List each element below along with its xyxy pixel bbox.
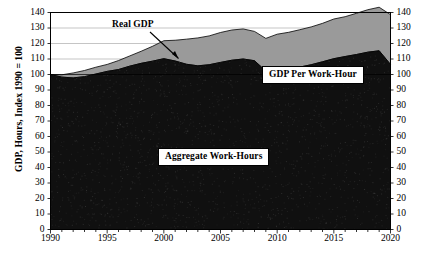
texture-dot	[308, 148, 309, 149]
texture-dot	[377, 141, 378, 142]
texture-dot	[283, 222, 284, 223]
texture-dot	[238, 218, 239, 219]
texture-dot	[360, 117, 361, 118]
texture-dot	[318, 160, 319, 161]
texture-dot	[235, 82, 236, 83]
texture-dot	[238, 190, 239, 191]
texture-dot	[284, 24, 285, 25]
texture-dot	[71, 154, 72, 155]
texture-dot	[371, 128, 372, 129]
texture-dot	[95, 29, 96, 30]
texture-dot	[197, 84, 198, 85]
texture-dot	[367, 116, 368, 117]
texture-dot	[165, 131, 166, 132]
texture-dot	[240, 222, 241, 223]
texture-dot	[180, 202, 181, 203]
texture-dot	[365, 77, 366, 78]
texture-dot	[149, 130, 150, 131]
texture-dot	[265, 118, 266, 119]
texture-dot	[355, 173, 356, 174]
texture-dot	[124, 169, 125, 170]
texture-dot	[240, 128, 241, 129]
texture-dot	[368, 90, 369, 91]
texture-dot	[142, 224, 143, 225]
texture-dot	[255, 191, 256, 192]
texture-dot	[346, 210, 347, 211]
texture-dot	[120, 170, 121, 171]
texture-dot	[63, 174, 64, 175]
texture-dot	[173, 220, 174, 221]
texture-dot	[219, 186, 220, 187]
texture-dot	[239, 178, 240, 179]
texture-dot	[334, 122, 335, 123]
texture-dot	[82, 117, 83, 118]
texture-dot	[141, 99, 142, 100]
texture-dot	[363, 155, 364, 156]
texture-dot	[288, 223, 289, 224]
texture-dot	[212, 96, 213, 97]
texture-dot	[376, 223, 377, 224]
texture-dot	[144, 160, 145, 161]
texture-dot	[60, 118, 61, 119]
texture-dot	[205, 140, 206, 141]
texture-dot	[320, 125, 321, 126]
texture-dot	[204, 97, 205, 98]
texture-dot	[339, 151, 340, 152]
texture-dot	[176, 17, 177, 18]
texture-dot	[231, 23, 232, 24]
texture-dot	[237, 224, 238, 225]
texture-dot	[319, 114, 320, 115]
texture-dot	[103, 154, 104, 155]
texture-dot	[88, 83, 89, 84]
texture-dot	[374, 78, 375, 79]
texture-dot	[123, 145, 124, 146]
texture-dot	[191, 201, 192, 202]
texture-dot	[78, 209, 79, 210]
texture-dot	[77, 141, 78, 142]
texture-dot	[213, 106, 214, 107]
texture-dot	[156, 168, 157, 169]
texture-dot	[214, 20, 215, 21]
texture-dot	[337, 216, 338, 217]
texture-dot	[281, 184, 282, 185]
texture-dot	[149, 188, 150, 189]
texture-dot	[194, 207, 195, 208]
texture-dot	[236, 213, 237, 214]
texture-dot	[67, 29, 68, 30]
texture-dot	[177, 116, 178, 117]
texture-dot	[272, 218, 273, 219]
texture-dot	[141, 156, 142, 157]
texture-dot	[345, 100, 346, 101]
texture-dot	[370, 168, 371, 169]
texture-dot	[320, 148, 321, 149]
texture-dot	[344, 175, 345, 176]
texture-dot	[212, 103, 213, 104]
texture-dot	[387, 189, 388, 190]
texture-dot	[296, 175, 297, 176]
texture-dot	[312, 173, 313, 174]
texture-dot	[176, 222, 177, 223]
texture-dot	[269, 217, 270, 218]
texture-dot	[132, 49, 133, 50]
texture-dot	[141, 219, 142, 220]
texture-dot	[309, 113, 310, 114]
texture-dot	[107, 168, 108, 169]
texture-dot	[116, 222, 117, 223]
texture-dot	[174, 62, 175, 63]
texture-dot	[144, 221, 145, 222]
texture-dot	[63, 162, 64, 163]
texture-dot	[64, 46, 65, 47]
texture-dot	[81, 102, 82, 103]
texture-dot	[86, 190, 87, 191]
texture-dot	[380, 79, 381, 80]
texture-dot	[376, 111, 377, 112]
texture-dot	[378, 129, 379, 130]
texture-dot	[242, 141, 243, 142]
texture-dot	[308, 153, 309, 154]
texture-dot	[120, 176, 121, 177]
texture-dot	[376, 117, 377, 118]
texture-dot	[85, 49, 86, 50]
texture-dot	[109, 199, 110, 200]
texture-dot	[59, 111, 60, 112]
texture-dot	[199, 188, 200, 189]
